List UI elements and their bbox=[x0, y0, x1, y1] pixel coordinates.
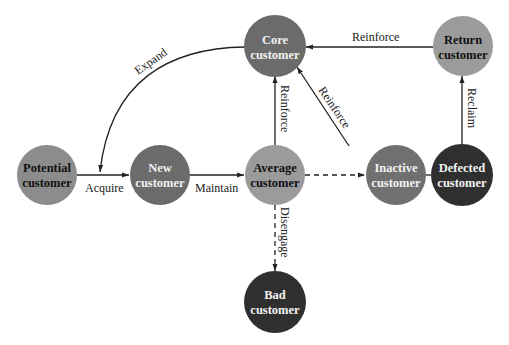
node-average-line1: Average bbox=[253, 161, 297, 175]
customer-lifecycle-diagram: Acquire Maintain Reinforce Reinforce Rei… bbox=[0, 0, 509, 345]
node-bad-line2: customer bbox=[250, 303, 300, 317]
node-potential: Potential customer bbox=[17, 145, 77, 205]
node-return-line2: customer bbox=[438, 48, 488, 62]
node-average-line2: customer bbox=[250, 176, 300, 190]
node-new-line2: customer bbox=[135, 176, 185, 190]
node-new: New customer bbox=[130, 145, 190, 205]
node-return-line1: Return bbox=[444, 33, 482, 47]
node-potential-line1: Potential bbox=[23, 161, 71, 175]
node-new-line1: New bbox=[148, 161, 172, 175]
node-inactive-line2: customer bbox=[371, 176, 421, 190]
node-core-line2: customer bbox=[250, 48, 300, 62]
label-disengage: Disengage bbox=[278, 207, 292, 258]
label-acquire: Acquire bbox=[85, 181, 124, 195]
node-defected: Defected customer bbox=[431, 144, 493, 206]
node-inactive-line1: Inactive bbox=[374, 161, 418, 175]
node-bad: Bad customer bbox=[244, 271, 306, 333]
node-potential-line2: customer bbox=[22, 176, 72, 190]
node-core: Core customer bbox=[244, 15, 306, 77]
label-reclaim: Reclaim bbox=[465, 88, 479, 129]
node-average: Average customer bbox=[245, 145, 305, 205]
label-reinforce-vertical: Reinforce bbox=[278, 85, 292, 132]
label-expand: Expand bbox=[132, 45, 170, 77]
node-core-line1: Core bbox=[262, 33, 289, 47]
node-return: Return customer bbox=[433, 16, 493, 76]
node-inactive: Inactive customer bbox=[366, 145, 426, 205]
node-bad-line1: Bad bbox=[264, 288, 286, 302]
label-reinforce-top: Reinforce bbox=[352, 30, 399, 44]
node-defected-line1: Defected bbox=[439, 161, 486, 175]
node-defected-line2: customer bbox=[437, 176, 487, 190]
label-maintain: Maintain bbox=[195, 181, 238, 195]
